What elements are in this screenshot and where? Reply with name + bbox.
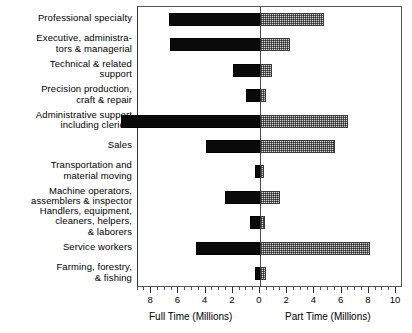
axis-tick-minor bbox=[354, 287, 355, 290]
category-label: Technical & related support bbox=[50, 59, 132, 80]
bar-row bbox=[138, 212, 401, 234]
axis-tick-minor bbox=[334, 287, 335, 290]
axis-tick-minor bbox=[381, 287, 382, 290]
axis-tick-label: 4 bbox=[302, 294, 324, 305]
axis-tick-minor bbox=[293, 287, 294, 290]
axis-tick-minor bbox=[225, 287, 226, 290]
bar-part-time bbox=[260, 140, 335, 153]
axis-title-part-time: Part Time (Millions) bbox=[285, 311, 371, 323]
category-label: Machine operators, assemblers & inspecto… bbox=[31, 186, 132, 207]
bar-full-time bbox=[225, 191, 260, 204]
axis-tick-major bbox=[177, 287, 178, 293]
category-label: Precision production, craft & repair bbox=[41, 84, 132, 105]
axis-tick-minor bbox=[279, 287, 280, 290]
axis-title-full-time: Full Time (Millions) bbox=[149, 311, 232, 323]
axis-tick-label: 0 bbox=[248, 294, 270, 305]
axis-tick-minor bbox=[307, 287, 308, 290]
axis-tick-minor bbox=[157, 287, 158, 290]
bar-full-time bbox=[170, 38, 260, 51]
axis-tick-label: 8 bbox=[139, 294, 161, 305]
bar-full-time bbox=[246, 89, 260, 102]
category-label: Transportation and material moving bbox=[51, 160, 132, 181]
axis-tick-label: 2 bbox=[221, 294, 243, 305]
axis-tick-minor bbox=[266, 287, 267, 290]
bidirectional-bar-chart: Professional specialtyExecutive, adminis… bbox=[0, 0, 412, 333]
axis-tick-minor bbox=[137, 287, 138, 290]
value-axis: Full Time (Millions) Part Time (Millions… bbox=[137, 287, 402, 333]
bar-row bbox=[138, 34, 401, 56]
bar-full-time bbox=[121, 115, 260, 128]
bar-row bbox=[138, 238, 401, 260]
axis-tick-major bbox=[205, 287, 206, 293]
category-label: Service workers bbox=[63, 242, 132, 253]
axis-tick-minor bbox=[211, 287, 212, 290]
bar-row bbox=[138, 111, 401, 133]
axis-tick-major bbox=[341, 287, 342, 293]
axis-tick-minor bbox=[361, 287, 362, 290]
axis-tick-label: 6 bbox=[166, 294, 188, 305]
category-label: Sales bbox=[108, 140, 132, 151]
axis-tick-minor bbox=[245, 287, 246, 290]
category-axis-labels: Professional specialtyExecutive, adminis… bbox=[0, 0, 136, 287]
axis-tick-major bbox=[232, 287, 233, 293]
bar-row bbox=[138, 136, 401, 158]
bar-part-time bbox=[260, 191, 280, 204]
axis-tick-label: 2 bbox=[275, 294, 297, 305]
bar-part-time bbox=[260, 13, 324, 26]
axis-tick-minor bbox=[198, 287, 199, 290]
axis-tick-minor bbox=[347, 287, 348, 290]
axis-tick-minor bbox=[327, 287, 328, 290]
bar-full-time bbox=[206, 140, 260, 153]
bar-part-time bbox=[260, 165, 264, 178]
bar-full-time bbox=[169, 13, 260, 26]
bar-part-time bbox=[260, 38, 290, 51]
bar-row bbox=[138, 85, 401, 107]
axis-tick-minor bbox=[320, 287, 321, 290]
axis-tick-minor bbox=[164, 287, 165, 290]
bar-row bbox=[138, 60, 401, 82]
axis-tick-major bbox=[368, 287, 369, 293]
plot-area bbox=[137, 6, 402, 287]
axis-tick-minor bbox=[388, 287, 389, 290]
axis-tick-minor bbox=[252, 287, 253, 290]
axis-tick-major bbox=[150, 287, 151, 293]
bar-row bbox=[138, 161, 401, 183]
category-label: Professional specialty bbox=[38, 13, 132, 24]
axis-tick-minor bbox=[191, 287, 192, 290]
axis-tick-major bbox=[259, 287, 260, 293]
axis-tick-minor bbox=[143, 287, 144, 290]
axis-tick-minor bbox=[375, 287, 376, 290]
axis-tick-label: 10 bbox=[384, 294, 406, 305]
axis-tick-minor bbox=[239, 287, 240, 290]
axis-tick-minor bbox=[273, 287, 274, 290]
bar-part-time bbox=[260, 267, 266, 280]
bar-full-time bbox=[233, 64, 260, 77]
axis-tick-minor bbox=[300, 287, 301, 290]
category-label: Executive, administra- tors & managerial bbox=[36, 33, 132, 54]
bar-row bbox=[138, 187, 401, 209]
axis-tick-minor bbox=[218, 287, 219, 290]
bar-full-time bbox=[196, 242, 260, 255]
axis-tick-major bbox=[286, 287, 287, 293]
axis-tick-label: 6 bbox=[330, 294, 352, 305]
axis-tick-major bbox=[313, 287, 314, 293]
bar-part-time bbox=[260, 89, 266, 102]
axis-tick-minor bbox=[184, 287, 185, 290]
bar-row bbox=[138, 9, 401, 31]
bar-part-time bbox=[260, 242, 370, 255]
axis-tick-major bbox=[395, 287, 396, 293]
category-label: Handlers, equipment, cleaners, helpers, … bbox=[40, 206, 132, 238]
axis-tick-label: 8 bbox=[357, 294, 379, 305]
bar-part-time bbox=[260, 216, 265, 229]
bar-part-time bbox=[260, 115, 348, 128]
axis-tick-label: 4 bbox=[194, 294, 216, 305]
category-label: Administrative support including clerica… bbox=[36, 110, 132, 131]
bar-part-time bbox=[260, 64, 272, 77]
bar-full-time bbox=[250, 216, 260, 229]
category-label: Farming, forestry, & fishing bbox=[56, 262, 132, 283]
bar-row bbox=[138, 263, 401, 285]
axis-tick-minor bbox=[171, 287, 172, 290]
